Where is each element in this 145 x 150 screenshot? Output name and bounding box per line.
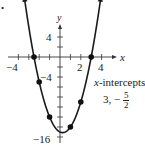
y-tick-label-4: 4 bbox=[46, 32, 52, 43]
data-point bbox=[88, 54, 94, 60]
x-axis-label: x bbox=[120, 52, 125, 63]
data-point bbox=[31, 54, 37, 60]
x-intercepts-values: 3, − 5 2 bbox=[103, 91, 129, 110]
fraction: 5 2 bbox=[123, 91, 130, 110]
y-tick-label-neg16: −16 bbox=[33, 134, 50, 145]
x-tick-label-4: 4 bbox=[98, 62, 104, 73]
parabola-graph bbox=[0, 0, 145, 150]
fraction-denominator: 2 bbox=[123, 101, 130, 110]
data-points bbox=[31, 54, 94, 130]
bullet-mark: • bbox=[1, 4, 4, 13]
data-point bbox=[47, 114, 53, 120]
data-point bbox=[78, 99, 84, 105]
x-tick-label-2: 2 bbox=[77, 62, 83, 73]
parabola-curve bbox=[24, 0, 101, 133]
x-intercepts-title: x-intercepts bbox=[94, 77, 145, 88]
data-point bbox=[68, 124, 74, 130]
y-tick-label-neg4: −4 bbox=[40, 72, 52, 83]
x-intercepts-text: -intercepts bbox=[99, 76, 145, 88]
x-tick-label-neg4: −4 bbox=[6, 62, 18, 73]
y-axis-label: y bbox=[57, 13, 61, 23]
x-intercepts-prefix: 3, − bbox=[103, 93, 120, 105]
